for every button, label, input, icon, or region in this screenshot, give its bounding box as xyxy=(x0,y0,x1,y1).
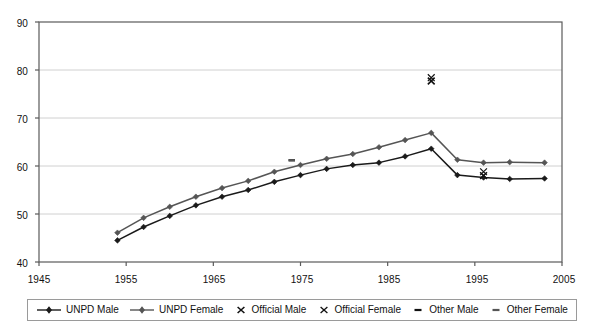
series-official-male xyxy=(428,78,487,179)
data-point-unpd-male xyxy=(298,172,304,178)
data-point-unpd-female xyxy=(481,160,487,166)
legend-item-official-female: Official Female xyxy=(317,304,402,316)
data-point-official-female xyxy=(480,168,487,175)
data-point-unpd-male xyxy=(350,162,356,168)
legend-label: Official Male xyxy=(252,304,307,316)
data-point-unpd-female xyxy=(219,185,225,191)
data-point-unpd-male xyxy=(376,160,382,166)
data-point-unpd-female xyxy=(507,159,513,165)
legend-label: Official Female xyxy=(335,304,402,316)
legend-label: UNPD Female xyxy=(159,304,223,316)
data-point-unpd-male xyxy=(324,166,330,172)
data-point-unpd-male xyxy=(402,154,408,160)
legend-item-official-male: Official Male xyxy=(234,304,307,316)
chart-legend: UNPD Male UNPD Female Official Male xyxy=(27,299,577,321)
data-point-unpd-female xyxy=(350,151,356,157)
data-point-unpd-male xyxy=(272,179,278,185)
data-point-unpd-male xyxy=(507,176,513,182)
data-point-unpd-female xyxy=(324,156,330,162)
legend-marker-dash-icon xyxy=(489,304,503,316)
series-unpd-female xyxy=(115,130,548,235)
data-point-unpd-female xyxy=(167,204,173,210)
data-point-unpd-male xyxy=(193,203,199,209)
legend-marker-line-diamond-icon xyxy=(129,304,155,316)
legend-marker-x-icon xyxy=(317,304,331,316)
data-point-official-male xyxy=(428,78,435,85)
data-point-unpd-female xyxy=(298,162,304,168)
legend-item-unpd-male: UNPD Male xyxy=(36,304,119,316)
data-point-unpd-male xyxy=(542,176,548,182)
data-point-unpd-male xyxy=(141,224,147,230)
data-point-unpd-male xyxy=(219,194,225,200)
series-line-unpd-female xyxy=(117,133,544,233)
plot-border xyxy=(39,22,562,262)
legend-item-unpd-female: UNPD Female xyxy=(129,304,223,316)
data-point-unpd-female xyxy=(245,178,251,184)
legend-item-other-female: Other Female xyxy=(489,304,568,316)
legend-label: Other Female xyxy=(507,304,568,316)
data-point-unpd-male xyxy=(115,238,121,244)
data-point-unpd-male xyxy=(245,187,251,193)
data-point-unpd-female xyxy=(402,137,408,143)
data-point-unpd-female xyxy=(376,144,382,150)
chart-container: 90 80 70 60 50 40 1945 1955 1965 1975 19… xyxy=(0,0,604,330)
legend-marker-x-icon xyxy=(234,304,248,316)
legend-marker-dash-icon xyxy=(411,304,425,316)
data-point-unpd-female xyxy=(193,194,199,200)
data-point-unpd-female xyxy=(542,160,548,166)
legend-label: UNPD Male xyxy=(66,304,119,316)
legend-marker-line-diamond-icon xyxy=(36,304,62,316)
plot-area xyxy=(0,0,604,330)
data-point-unpd-female xyxy=(272,169,278,175)
legend-label: Other Male xyxy=(429,304,478,316)
legend-item-other-male: Other Male xyxy=(411,304,478,316)
